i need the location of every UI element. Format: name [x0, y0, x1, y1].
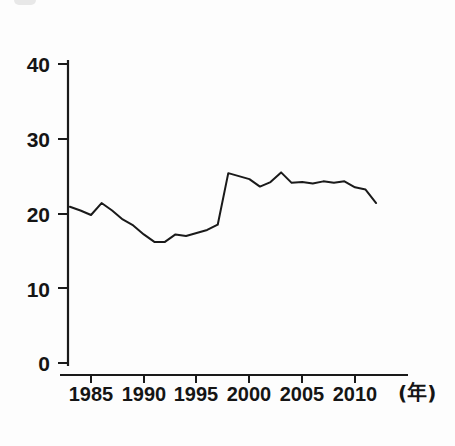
chart-figure: 40 30 20 10 0 1985 1990 1995 2000 2005 2… [0, 0, 455, 446]
x-axis-ticks [91, 375, 355, 383]
plot-area [0, 0, 455, 446]
data-series-line [70, 172, 376, 242]
y-axis-ticks [58, 64, 68, 363]
